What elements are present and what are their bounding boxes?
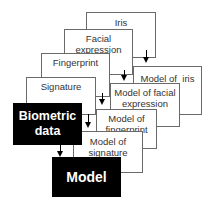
model-label-iris: Model of iris xyxy=(134,67,201,84)
model-label-signature: Model of signature xyxy=(74,132,142,158)
input-label-facial-expression: Facial expression xyxy=(65,30,132,55)
input-label-iris: Iris xyxy=(87,13,155,28)
biometric-data-box: Biometric data xyxy=(13,103,82,145)
input-label-fingerprint: Fingerprint xyxy=(42,54,109,68)
model-label-facial-expression: Model of facial expression xyxy=(111,84,179,109)
model-output-box: Model xyxy=(52,157,121,197)
biometric-data-label: Biometric data xyxy=(19,109,77,139)
model-output-label: Model xyxy=(66,170,106,185)
input-label-signature: Signature xyxy=(27,78,95,92)
